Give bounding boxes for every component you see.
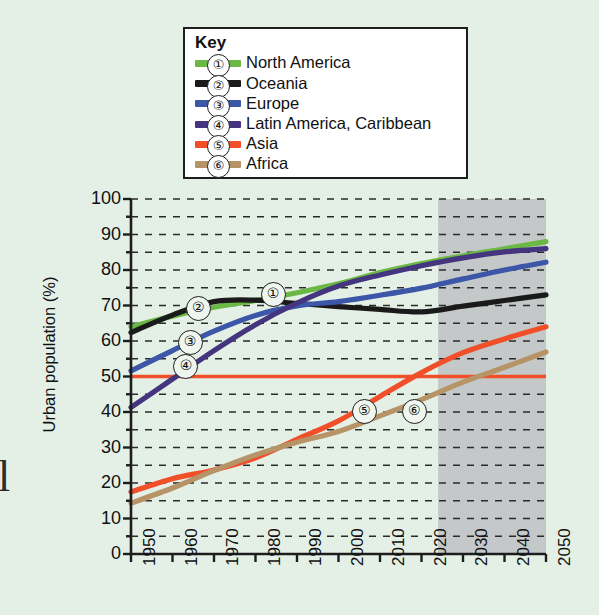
- page-bleed-text: l: [0, 455, 10, 499]
- x-axis-tick-label: 2010: [389, 528, 409, 566]
- series-marker-north-america: ①: [261, 282, 286, 307]
- x-axis-tick-label: 2040: [514, 528, 534, 566]
- y-axis-tick-label: 10: [81, 508, 121, 529]
- x-axis-tick-label: 2000: [348, 528, 368, 566]
- y-axis-tick-label: 70: [81, 295, 121, 316]
- legend-swatch-icon: ⑤: [195, 137, 241, 150]
- x-axis-tick-label: 1960: [182, 528, 202, 566]
- legend-item-label: Africa: [246, 154, 288, 173]
- chart-legend: Key ①North America②Oceania③Europe④Latin …: [183, 27, 468, 179]
- legend-item-label: Oceania: [246, 74, 307, 93]
- y-axis-tick-label: 20: [81, 472, 121, 493]
- series-marker-oceania: ②: [186, 296, 211, 321]
- legend-item-label: Latin America, Caribbean: [246, 114, 431, 133]
- legend-swatch-icon: ⑥: [195, 157, 241, 170]
- legend-item-europe: ③Europe: [195, 93, 460, 113]
- x-axis-tick-label: 2030: [472, 528, 492, 566]
- legend-swatch-icon: ②: [195, 77, 241, 90]
- legend-item-africa: ⑥Africa: [195, 154, 460, 174]
- legend-swatch-icon: ④: [195, 117, 241, 130]
- y-axis-tick-label: 30: [81, 437, 121, 458]
- legend-title: Key: [195, 34, 460, 52]
- legend-number-icon: ⑥: [207, 155, 230, 178]
- legend-item-oceania: ②Oceania: [195, 73, 460, 93]
- legend-item-north-america: ①North America: [195, 53, 460, 73]
- y-axis-tick-label: 50: [81, 366, 121, 387]
- y-axis-tick-label: 60: [81, 330, 121, 351]
- series-marker-europe: ③: [178, 330, 203, 355]
- y-axis-tick-label: 80: [81, 259, 121, 280]
- legend-swatch-icon: ③: [195, 97, 241, 110]
- y-axis-tick-label: 90: [81, 224, 121, 245]
- x-axis-tick-label: 2050: [555, 528, 575, 566]
- y-axis-tick-label: 0: [81, 543, 121, 564]
- legend-item-latin-america-caribbean: ④Latin America, Caribbean: [195, 113, 460, 133]
- series-marker-asia: ⑤: [352, 399, 377, 424]
- legend-item-label: North America: [246, 53, 351, 72]
- y-axis-tick-label: 100: [81, 188, 121, 209]
- x-axis-tick-label: 1950: [140, 528, 160, 566]
- y-axis-tick-label: 40: [81, 401, 121, 422]
- x-axis-tick-label: 1970: [223, 528, 243, 566]
- y-axis-title: Urban population (%): [40, 260, 59, 450]
- legend-item-label: Europe: [246, 94, 299, 113]
- x-axis-tick-label: 2020: [431, 528, 451, 566]
- series-marker-africa: ⑥: [402, 399, 427, 424]
- legend-item-label: Asia: [246, 134, 278, 153]
- x-axis-tick-label: 1980: [265, 528, 285, 566]
- x-axis-tick-label: 1990: [306, 528, 326, 566]
- legend-swatch-icon: ①: [195, 56, 241, 69]
- legend-item-asia: ⑤Asia: [195, 134, 460, 154]
